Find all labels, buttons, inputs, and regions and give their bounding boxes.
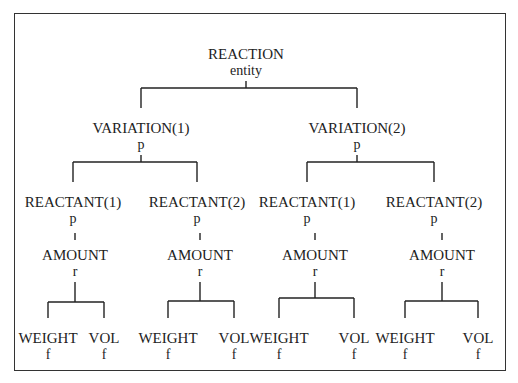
node-label-vo1: VOL [89, 330, 120, 346]
node-type-vo2: f [232, 347, 237, 363]
node-type-var2: p [354, 137, 361, 153]
node-type-w2: f [166, 347, 171, 363]
node-type-w1: f [46, 347, 51, 363]
node-type-vo3: f [352, 347, 357, 363]
node-type-v1r1: p [70, 211, 77, 227]
node-type-a3: r [313, 264, 318, 280]
node-type-vo1: f [102, 347, 107, 363]
node-type-w3: f [277, 347, 282, 363]
node-label-w3: WEIGHT [249, 330, 308, 346]
node-type-a4: r [440, 264, 445, 280]
node-type-v2r1: p [304, 211, 311, 227]
node-label-vo4: VOL [463, 330, 494, 346]
node-label-var2: VARIATION(2) [308, 120, 405, 136]
node-label-a1: AMOUNT [42, 247, 108, 263]
node-label-vo2: VOL [219, 330, 250, 346]
node-label-a3: AMOUNT [282, 247, 348, 263]
node-label-w1: WEIGHT [18, 330, 77, 346]
node-type-w4: f [403, 347, 408, 363]
node-label-v1r1: REACTANT(1) [25, 194, 121, 210]
node-type-v2r2: p [431, 211, 438, 227]
node-label-v2r2: REACTANT(2) [386, 194, 482, 210]
node-type-a2: r [198, 264, 203, 280]
node-label-vo3: VOL [339, 330, 370, 346]
node-type-vo4: f [476, 347, 481, 363]
node-type-var1: p [138, 137, 145, 153]
node-type-v1r2: p [194, 211, 201, 227]
node-label-a2: AMOUNT [167, 247, 233, 263]
tree-diagram: REACTIONentityVARIATION(1)pVARIATION(2)p… [0, 0, 518, 383]
node-label-reaction: REACTION [208, 46, 284, 62]
node-label-v1r2: REACTANT(2) [149, 194, 245, 210]
node-type-a1: r [73, 264, 78, 280]
node-label-v2r1: REACTANT(1) [259, 194, 355, 210]
node-label-a4: AMOUNT [409, 247, 475, 263]
node-label-var1: VARIATION(1) [92, 120, 189, 136]
node-label-w4: WEIGHT [375, 330, 434, 346]
node-type-reaction: entity [230, 63, 262, 79]
node-label-w2: WEIGHT [138, 330, 197, 346]
